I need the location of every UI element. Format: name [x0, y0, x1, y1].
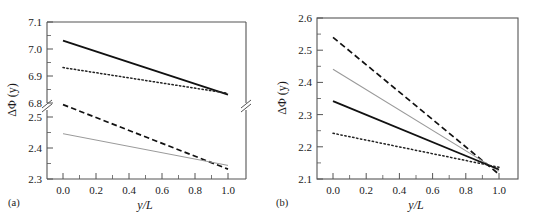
panel-b-series-dotted: [333, 133, 499, 167]
axis-frame: [317, 18, 518, 179]
panel-a-x-ticks: [63, 173, 228, 179]
panel-b-xtick-5: 1.0: [492, 184, 506, 196]
panel-a-series-solid-thin-gray-lower: [63, 134, 228, 166]
panel-a-ytick-2.3: 2.3: [28, 173, 42, 185]
panel-b-series-solid-thin-gray: [333, 69, 499, 171]
panel-a-xlabel: y/L: [136, 198, 153, 212]
panel-b: 2.6 2.5 2.4 2.3 2.2 2.1 0.0 0.2 0.4 0.6 …: [268, 0, 536, 218]
figure-container: 7.1 7.0 6.9 6.8 2.5 2.4 2.3 0.0 0.2 0.4 …: [0, 0, 536, 218]
panel-a-series-solid-thick-upper: [63, 41, 228, 95]
panel-b-x-ticks: [333, 173, 499, 179]
panel-b-y-ticks: [317, 18, 323, 179]
panel-a-ytick-2.5: 2.5: [28, 111, 42, 123]
panel-b-xlabel: y/L: [407, 198, 424, 212]
panel-a-ytick-6.8: 6.8: [28, 97, 42, 109]
panel-b-ytick-2.3: 2.3: [298, 109, 312, 121]
panel-b-ytick-2.2: 2.2: [298, 141, 312, 153]
panel-a-xtick-4: 0.8: [188, 184, 202, 196]
panel-a-ytick-6.9: 6.9: [28, 70, 42, 82]
panel-b-series-solid-thick: [333, 101, 499, 169]
panel-a-series-dotted-upper: [63, 68, 228, 94]
panel-b-plot: 2.6 2.5 2.4 2.3 2.2 2.1 0.0 0.2 0.4 0.6 …: [268, 0, 536, 218]
panel-a-xtick-0: 0.0: [56, 184, 70, 196]
panel-a-plot: 7.1 7.0 6.9 6.8 2.5 2.4 2.3 0.0 0.2 0.4 …: [0, 0, 268, 218]
panel-b-label: (b): [276, 197, 289, 209]
panel-b-series-dashed: [333, 37, 499, 174]
panel-b-ytick-2.5: 2.5: [298, 44, 312, 56]
panel-b-xtick-0: 0.0: [326, 184, 340, 196]
panel-a-ytick-7.1: 7.1: [28, 16, 42, 28]
panel-a-ytick-2.4: 2.4: [28, 142, 42, 154]
panel-b-ylabel: ΔΦ (y): [275, 81, 289, 114]
panel-b-ytick-2.1: 2.1: [298, 173, 312, 185]
panel-a-label: (a): [8, 197, 20, 209]
panel-a-xtick-2: 0.4: [122, 184, 136, 196]
panel-b-ytick-2.6: 2.6: [298, 12, 312, 24]
panel-b-xtick-1: 0.2: [359, 184, 373, 196]
panel-a-series-dashed-lower: [63, 105, 228, 170]
panel-b-xtick-4: 0.8: [459, 184, 473, 196]
panel-b-axes: [317, 18, 518, 179]
panel-b-xtick-3: 0.6: [426, 184, 440, 196]
panel-a-ytick-7.0: 7.0: [28, 43, 42, 55]
panel-a-xtick-1: 0.2: [89, 184, 103, 196]
panel-a: 7.1 7.0 6.9 6.8 2.5 2.4 2.3 0.0 0.2 0.4 …: [0, 0, 268, 218]
panel-a-ylabel: ΔΦ (y): [5, 83, 19, 116]
panel-b-ytick-2.4: 2.4: [298, 76, 312, 88]
panel-a-xtick-5: 1.0: [221, 184, 235, 196]
panel-a-xtick-3: 0.6: [155, 184, 169, 196]
panel-b-xtick-2: 0.4: [393, 184, 407, 196]
